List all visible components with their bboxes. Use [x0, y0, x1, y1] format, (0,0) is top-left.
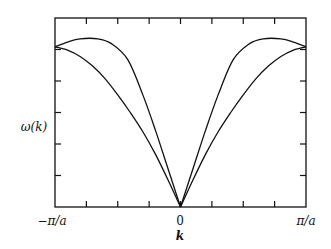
upper-branch-curve	[181, 38, 307, 207]
x-tick-label-right: π/a	[295, 214, 315, 228]
x-axis-label: k	[176, 229, 184, 243]
lower-branch-curve	[181, 47, 307, 207]
upper-branch-curve	[55, 38, 181, 207]
x-tick-label-left: −π/a	[37, 214, 66, 228]
plot-frame	[55, 18, 306, 207]
dispersion-chart: ω(k) −π/a 0 π/a k	[0, 0, 331, 249]
y-axis-label: ω(k)	[21, 120, 48, 134]
dispersion-curves	[55, 38, 306, 207]
lower-branch-curve	[55, 47, 181, 207]
x-tick-label-center: 0	[176, 214, 184, 228]
axis-ticks	[55, 18, 306, 207]
